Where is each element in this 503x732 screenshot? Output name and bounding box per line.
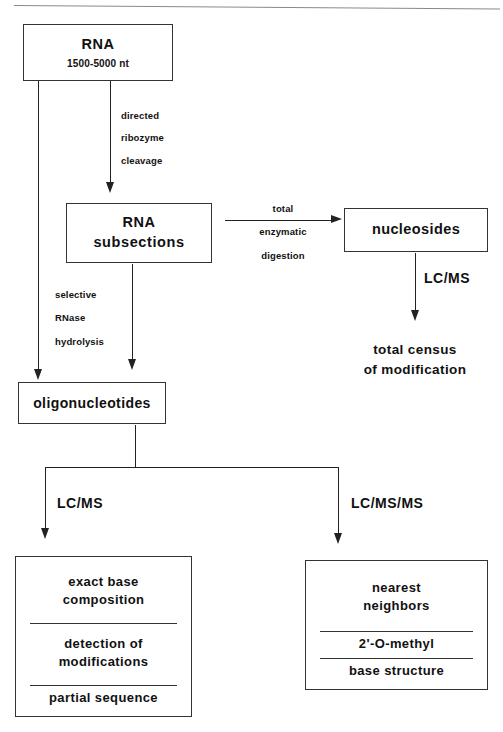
edge-label-line-2: ribozyme bbox=[121, 132, 164, 144]
edge-label-lcms-nucleosides: LC/MS bbox=[424, 270, 470, 286]
edge-label-line-2: RNase bbox=[55, 312, 104, 324]
edge-label-line-3: hydrolysis bbox=[55, 336, 104, 348]
node-total-census: total census of modification bbox=[335, 340, 495, 379]
edge-oligonucleotides-stem bbox=[135, 425, 136, 468]
edge-branch-left-arrowhead bbox=[41, 528, 49, 539]
edge-rna-to-oligonucleotides-line bbox=[38, 81, 39, 371]
segment-2-o-methyl: 2'-O-methyl bbox=[306, 631, 487, 658]
node-rna-subtitle: 1500-5000 nt bbox=[24, 57, 172, 70]
node-total-census-line-2: of modification bbox=[335, 360, 495, 380]
segment-base-structure: base structure bbox=[306, 658, 487, 685]
segment-line-1: detection of bbox=[64, 635, 142, 653]
segment-nearest-neighbors: nearest neighbors bbox=[306, 565, 487, 631]
edge-rna-to-subsections-line bbox=[110, 81, 111, 184]
node-nucleosides-label: nucleosides bbox=[345, 219, 487, 240]
edge-label-selective-rnase-hydrolysis: selective RNase hydrolysis bbox=[55, 289, 104, 348]
node-rna: RNA 1500-5000 nt bbox=[23, 24, 173, 81]
node-rna-subsections-line-1: RNA bbox=[67, 213, 211, 233]
edge-subsections-to-oligonucleotides-line bbox=[132, 264, 133, 361]
flowchart-canvas: RNA 1500-5000 nt directed ribozyme cleav… bbox=[0, 0, 503, 732]
segment-line-1: base structure bbox=[349, 662, 444, 680]
edge-label-line-1: selective bbox=[55, 289, 104, 301]
top-divider-rule bbox=[14, 5, 500, 11]
node-lcms-results: exact base composition detection of modi… bbox=[15, 556, 192, 717]
edge-rna-to-subsections-arrowhead bbox=[106, 182, 114, 193]
edge-rna-to-oligonucleotides-arrowhead bbox=[34, 369, 42, 380]
node-oligonucleotides: oligonucleotides bbox=[18, 382, 166, 424]
segment-line-1: 2'-O-methyl bbox=[359, 635, 434, 653]
edge-subsections-to-oligonucleotides-arrowhead bbox=[128, 359, 136, 370]
edge-label-lcmsms-right-branch: LC/MS/MS bbox=[351, 495, 423, 511]
edge-label-directed-ribozyme-cleavage: directed ribozyme cleavage bbox=[121, 110, 164, 167]
edge-label-text: LC/MS bbox=[57, 495, 103, 511]
segment-line-2: composition bbox=[63, 591, 145, 609]
segment-exact-base-composition: exact base composition bbox=[16, 561, 191, 623]
edge-label-lcms-left-branch: LC/MS bbox=[57, 495, 103, 511]
edge-branch-left-line bbox=[45, 467, 46, 530]
node-rna-subsections: RNA subsections bbox=[66, 203, 212, 263]
node-total-census-line-1: total census bbox=[335, 340, 495, 360]
segment-line-1: nearest bbox=[372, 579, 421, 597]
edge-oligonucleotides-split-bar bbox=[45, 467, 339, 468]
node-rna-subsections-line-2: subsections bbox=[67, 233, 211, 253]
edge-label-total-enzymatic-digestion: total enzymatic digestion bbox=[243, 203, 323, 262]
edge-label-text: LC/MS bbox=[424, 270, 470, 286]
divider-line bbox=[14, 5, 500, 10]
edge-label-line-1: directed bbox=[121, 110, 164, 122]
edge-subsections-to-nucleosides-arrowhead bbox=[331, 215, 342, 223]
node-oligonucleotides-label: oligonucleotides bbox=[19, 393, 165, 413]
edge-label-line-1: total bbox=[243, 203, 323, 215]
segment-line-1: partial sequence bbox=[49, 689, 158, 707]
segment-line-2: modifications bbox=[59, 653, 149, 671]
edge-branch-right-arrowhead bbox=[334, 533, 342, 544]
segment-detection-of-modifications: detection of modifications bbox=[16, 623, 191, 685]
edge-label-text: LC/MS/MS bbox=[351, 495, 423, 511]
edge-label-line-3: digestion bbox=[243, 250, 323, 262]
node-nucleosides: nucleosides bbox=[344, 208, 488, 252]
edge-nucleosides-to-census-line bbox=[415, 253, 416, 312]
segment-line-1: exact base bbox=[68, 573, 139, 591]
edge-nucleosides-to-census-arrowhead bbox=[411, 310, 419, 321]
node-lcmsms-results: nearest neighbors 2'-O-methyl base struc… bbox=[305, 560, 488, 690]
node-rna-title: RNA bbox=[24, 35, 172, 55]
edge-branch-right-line bbox=[338, 467, 339, 535]
edge-label-line-3: cleavage bbox=[121, 155, 164, 167]
edge-label-line-2: enzymatic bbox=[243, 226, 323, 238]
segment-partial-sequence: partial sequence bbox=[16, 685, 191, 712]
segment-line-2: neighbors bbox=[363, 597, 429, 615]
